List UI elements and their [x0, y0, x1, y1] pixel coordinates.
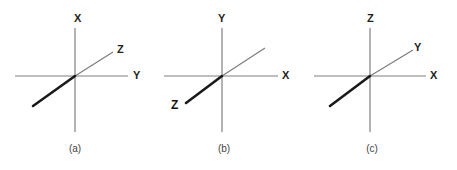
diagonal-axis-thin-half [370, 50, 413, 76]
panel-a-horizontal-axis-label: Y [133, 70, 140, 81]
diagonal-axis-bold-half [330, 76, 370, 106]
panel-b-horizontal-axis-label: X [282, 70, 289, 81]
panel-b-vertical-axis-label: Y [218, 13, 225, 24]
diagonal-axis-bold-half [33, 76, 75, 106]
diagonal-axis-bold-half [186, 76, 222, 103]
panel-c-caption: (c) [352, 144, 392, 154]
panel-c-diagonal-axis-label: Y [414, 42, 421, 53]
panel-c-vertical-axis-label: Z [367, 13, 374, 24]
panel-a-vertical-axis-label: X [74, 13, 81, 24]
panel-b: Y X Z (b) [152, 0, 304, 170]
axes-figure: X Y Z (a) Y X Z (b) Z X Y (c) [0, 0, 457, 170]
panel-c: Z X Y (c) [304, 0, 457, 170]
panel-c-horizontal-axis-label: X [430, 70, 437, 81]
panel-a: X Y Z (a) [0, 0, 152, 170]
panel-b-caption: (b) [204, 144, 244, 154]
panel-a-caption: (a) [55, 144, 95, 154]
panel-a-diagonal-axis-label: Z [117, 44, 124, 55]
panel-b-diagonal-axis-label: Z [171, 100, 178, 111]
diagonal-axis-thin-half [75, 52, 113, 76]
diagonal-axis-thin-half [222, 48, 265, 76]
